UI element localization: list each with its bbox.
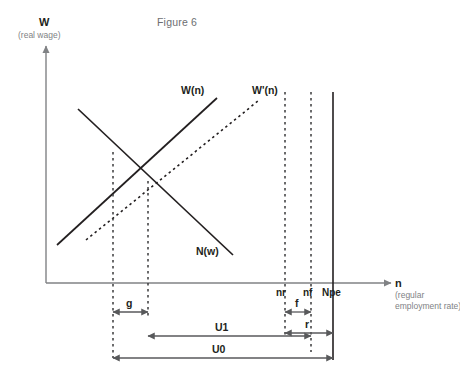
tick-label-nr: nr (276, 287, 286, 299)
x-axis-sublabel-line2: employment rate) (395, 301, 460, 312)
measure-label-r: r (305, 318, 309, 330)
curve-label-wage-shifted: W'(n) (252, 84, 278, 96)
measure-label-u1: U1 (215, 321, 228, 333)
guide-lines-group (113, 92, 333, 360)
curve-label-labour-demand: N(w) (196, 245, 219, 257)
figure-drawing (0, 0, 460, 374)
wage-curve (78, 109, 233, 255)
measure-label-u0: U0 (212, 343, 225, 355)
x-axis-sublabel-line1: (regular (395, 290, 424, 301)
y-axis-sublabel: (real wage) (18, 30, 61, 41)
figure-canvas: Figure 6 W (real wage) n (regular employ… (0, 0, 460, 374)
x-axis-label: n (395, 277, 402, 290)
curve-label-wage: W(n) (181, 84, 204, 96)
measure-label-g: g (126, 297, 132, 309)
wage-curve-shifted (86, 101, 258, 240)
tick-label-nf: nf (303, 287, 312, 299)
measure-label-f: f (295, 297, 299, 309)
y-axis-label: W (39, 16, 49, 29)
labour-demand-curve (57, 98, 217, 245)
tick-label-npe: Npe (322, 287, 341, 299)
curves-group (57, 98, 258, 255)
figure-title: Figure 6 (157, 16, 197, 28)
